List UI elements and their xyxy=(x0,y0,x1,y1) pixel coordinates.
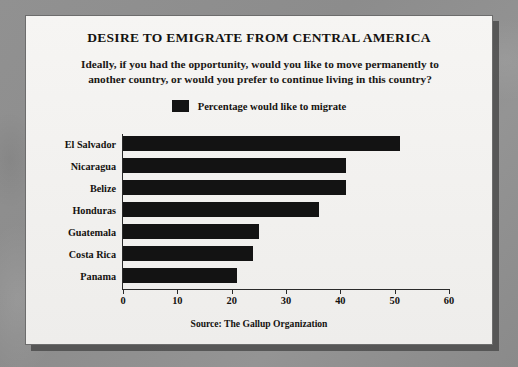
category-label: Costa Rica xyxy=(26,247,116,262)
category-label: Panama xyxy=(26,269,116,284)
x-axis-tick xyxy=(395,289,396,294)
category-label: Guatemala xyxy=(26,225,116,240)
source-note: Source: The Gallup Organization xyxy=(26,318,492,329)
bar-row: Guatemala xyxy=(26,222,493,244)
x-axis-tick-label: 60 xyxy=(444,295,454,306)
bar xyxy=(123,136,400,151)
bar-row: Honduras xyxy=(26,200,493,222)
bar-row: Panama xyxy=(26,266,493,288)
legend-label: Percentage would like to migrate xyxy=(198,101,347,112)
bar-row: Costa Rica xyxy=(26,244,493,266)
bar xyxy=(123,180,346,195)
category-label: Honduras xyxy=(26,203,116,218)
bar xyxy=(123,268,237,283)
x-axis-tick-label: 30 xyxy=(281,295,291,306)
x-axis-tick xyxy=(123,289,124,294)
chart-legend: Percentage would like to migrate xyxy=(26,100,492,112)
page-title: DESIRE TO EMIGRATE FROM CENTRAL AMERICA xyxy=(26,30,492,46)
x-axis-tick-label: 0 xyxy=(120,295,125,306)
x-axis-tick-label: 50 xyxy=(389,295,399,306)
x-axis-tick xyxy=(286,289,287,294)
bar-row: Nicaragua xyxy=(26,156,493,178)
category-label: Belize xyxy=(26,181,116,196)
chart-subtitle: Ideally, if you had the opportunity, wou… xyxy=(62,57,458,87)
bar xyxy=(123,202,319,217)
category-label: El Salvador xyxy=(26,137,116,152)
x-axis-tick xyxy=(449,289,450,294)
x-axis-tick xyxy=(232,289,233,294)
x-axis-tick-label: 20 xyxy=(226,295,236,306)
page-background: DESIRE TO EMIGRATE FROM CENTRAL AMERICA … xyxy=(0,0,518,367)
chart-card: DESIRE TO EMIGRATE FROM CENTRAL AMERICA … xyxy=(25,15,493,345)
legend-swatch-icon xyxy=(172,100,189,112)
category-label: Nicaragua xyxy=(26,159,116,174)
bar xyxy=(123,158,346,173)
bar xyxy=(123,246,253,261)
x-axis-tick xyxy=(177,289,178,294)
bar-row: Belize xyxy=(26,178,493,200)
bar xyxy=(123,224,259,239)
plot-area: El SalvadorNicaraguaBelizeHondurasGuatem… xyxy=(26,134,493,299)
x-axis-tick-label: 10 xyxy=(172,295,182,306)
x-axis-tick-label: 40 xyxy=(335,295,345,306)
bar-row: El Salvador xyxy=(26,134,493,156)
x-axis-tick xyxy=(340,289,341,294)
